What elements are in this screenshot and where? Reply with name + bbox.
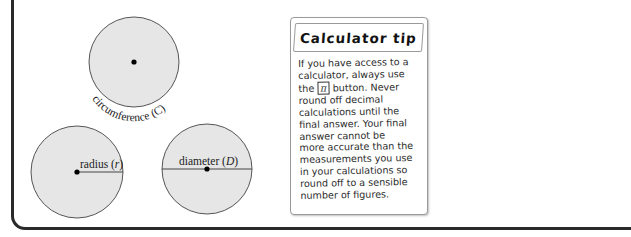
center-dot xyxy=(74,169,79,174)
radius-circle: radius (r) xyxy=(31,126,123,218)
diameter-label: diameter (D) xyxy=(179,155,238,168)
pi-key-icon: π xyxy=(317,81,330,94)
tip-line: final answer. Your final xyxy=(299,116,423,130)
tip-line: round off to a sensible xyxy=(300,176,424,190)
center-dot xyxy=(204,166,209,171)
calculator-tip-box: Calculator tip If you have access to a c… xyxy=(290,17,428,215)
circumference-circle: circumference (C) xyxy=(89,17,179,123)
tip-line: number of figures. xyxy=(300,188,424,202)
diameter-circle: diameter (D) xyxy=(162,124,252,214)
tip-title: Calculator tip xyxy=(293,23,424,52)
tip-body: If you have access to a calculator, alwa… xyxy=(298,56,424,202)
circle-diagram: circumference (C) radius (r) diameter (D… xyxy=(0,0,290,237)
tip-line: calculator, always use xyxy=(298,68,422,82)
radius-label: radius (r) xyxy=(80,158,123,171)
center-dot xyxy=(131,59,136,64)
